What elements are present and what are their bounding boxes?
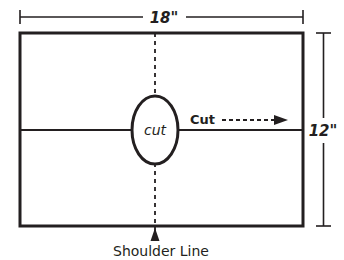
width-dimension-group: 18" bbox=[20, 9, 303, 27]
height-dimension-label: 12" bbox=[309, 122, 338, 140]
diagram-canvas: 18" cut Cut 12" Shoulder Line bbox=[0, 0, 344, 260]
oval-cut-label: cut bbox=[144, 122, 167, 138]
cutting-layout-diagram: 18" cut Cut 12" Shoulder Line bbox=[0, 0, 344, 260]
shoulder-line-caption: Shoulder Line bbox=[113, 243, 209, 259]
shoulder-line-arrowhead-icon bbox=[151, 228, 160, 241]
width-dimension-label: 18" bbox=[150, 9, 179, 27]
height-dimension-group: 12" bbox=[309, 33, 338, 226]
cut-direction-label: Cut bbox=[190, 112, 215, 127]
